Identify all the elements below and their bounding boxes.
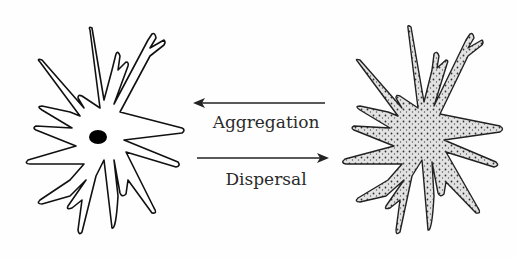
dispersal-label: Dispersal [186, 169, 346, 189]
nucleus [89, 130, 107, 144]
aggregation-arrow [193, 98, 325, 108]
right-cell [343, 26, 503, 234]
left-cell [26, 27, 184, 233]
diagram-canvas: Aggregation Dispersal [0, 0, 517, 258]
aggregation-label: Aggregation [186, 112, 346, 132]
dispersal-arrow [197, 153, 329, 163]
